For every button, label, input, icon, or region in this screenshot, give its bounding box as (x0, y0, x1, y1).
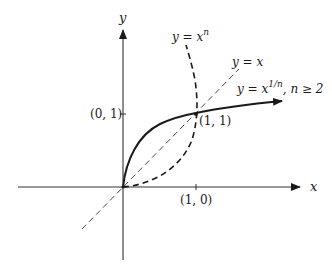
svg-text:y = x: y = x (231, 55, 263, 69)
power-label-exponent: n (203, 27, 209, 37)
power-label: y = xn (171, 27, 209, 44)
x-axis (18, 184, 300, 190)
intersection-label: (1, 1) (199, 114, 231, 128)
root-label-base: y = x (236, 82, 268, 96)
root-label: y = x1/n, n ≥ 2 (236, 79, 323, 96)
y-tick-label: (0, 1) (90, 107, 122, 121)
power-label-base: y = x (171, 30, 203, 44)
identity-line (82, 69, 239, 229)
x-tick-label: (1, 0) (180, 193, 212, 207)
identity-label: y = x (231, 55, 263, 69)
svg-text:y = xn: y = xn (171, 27, 209, 44)
function-graph-figure: x y (0, 1) (1, 0) (1, 1) y = x y = xn y … (0, 0, 332, 273)
origin-point (121, 185, 124, 188)
y-axis (120, 30, 126, 260)
root-label-condition: , n ≥ 2 (283, 82, 324, 96)
root-label-exponent: 1/n (268, 79, 283, 89)
x-axis-label: x (310, 179, 318, 194)
intersection-point (194, 112, 198, 116)
svg-text:y = x1/n, n ≥ 2: y = x1/n, n ≥ 2 (236, 79, 323, 96)
y-axis-label: y (118, 10, 127, 25)
